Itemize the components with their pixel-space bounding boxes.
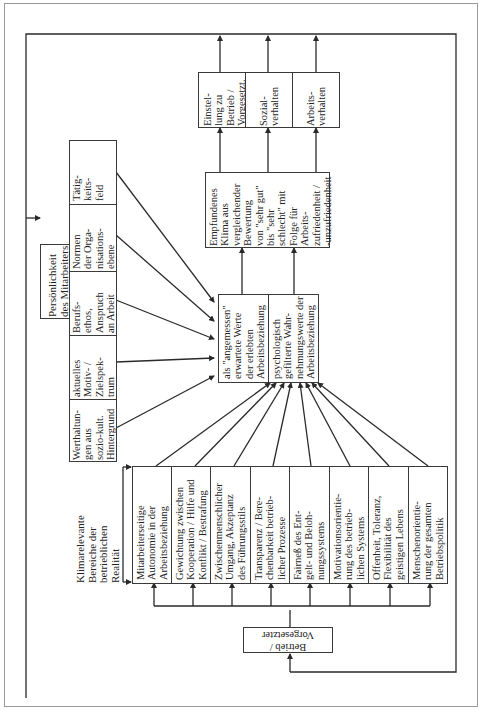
reality-area-gewichtung: Gewichtung zwischen Kooperation / Hilfe … xyxy=(172,467,211,583)
reality-area-fairness-label: Fairneß des Ent- gelt- und Beloh- nungss… xyxy=(292,511,326,580)
outcome-arbeitsverhalten-label: Arbeits- verhalten xyxy=(305,87,328,126)
factor-werthaltungen-label: Werthaltun- gen aus sozio-kult. Hintergr… xyxy=(71,409,117,460)
reality-area-transparenz: Transparenz / Bere- chenbarkeit betrieb-… xyxy=(251,467,290,583)
reality-area-menschenorientierung-label: Menschenorientie- rung der gesamten Betr… xyxy=(411,501,445,580)
reality-area-autonomie-label: Mitarbeiterseitige Autonomie in der Arbe… xyxy=(135,505,169,580)
reality-area-umgang: Zwischenmenschlicher Umgang, Akzeptanz d… xyxy=(211,467,251,583)
factor-werthaltungen: Werthaltun- gen aus sozio-kult. Hintergr… xyxy=(70,399,116,461)
factor-taetigkeitsfeld: Tätig- keits- feld xyxy=(70,141,116,204)
factor-normen: Normen der Orga- nisations- ebene xyxy=(70,204,116,271)
outcome-arbeitsverhalten-box: Arbeits- verhalten xyxy=(292,72,340,128)
source-box: Betrieb / Vorgesetzter xyxy=(243,627,333,653)
climate-label: Empfundenes Klima aus vergleichender Bew… xyxy=(208,177,333,246)
reality-area-gewichtung-label: Gewichtung zwischen Kooperation / Hilfe … xyxy=(174,479,208,580)
climate-box: Empfundenes Klima aus vergleichender Bew… xyxy=(205,172,330,248)
reality-area-motivation-label: Motivationsorientie- rung des betrieb- l… xyxy=(332,494,366,580)
factor-berufsethos-label: Berufs- ethos, Anspruch an Arbeit xyxy=(71,292,117,333)
factor-normen-label: Normen der Orga- nisations- ebene xyxy=(71,228,117,269)
reality-area-umgang-label: Zwischenmenschlicher Umgang, Akzeptanz d… xyxy=(213,483,247,580)
reality-area-offenheit-label: Offenheit, Toleranz, Flexibilität des ge… xyxy=(371,496,405,580)
reality-area-menschenorientierung: Menschenorientie- rung der gesamten Betr… xyxy=(409,467,447,583)
reality-title: Klimarelevante Bereiche der betriebliche… xyxy=(75,515,121,583)
factor-motivspektrum-label: aktuelles Motiv- / Zielspek- trum xyxy=(71,357,117,397)
factor-taetigkeitsfeld-label: Tätig- keits- feld xyxy=(71,175,105,201)
reality-area-autonomie: Mitarbeiterseitige Autonomie in der Arbe… xyxy=(133,467,172,583)
reality-area-motivation: Motivationsorientie- rung des betrieb- l… xyxy=(330,467,369,583)
source-label: Betrieb / Vorgesetzter xyxy=(244,629,332,653)
reality-area-offenheit: Offenheit, Toleranz, Flexibilität des ge… xyxy=(369,467,409,583)
factor-berufsethos: Berufs- ethos, Anspruch an Arbeit xyxy=(70,271,116,335)
reality-areas-box: Mitarbeiterseitige Autonomie in der Arbe… xyxy=(132,466,448,584)
expected-values-cell: als "angemessen" erwartete Werte der erl… xyxy=(219,295,269,382)
outcome-sozialverhalten-box: Sozial- verhalten xyxy=(245,72,293,128)
expected-values-label: als "angemessen" erwartete Werte der erl… xyxy=(221,305,267,379)
diagram-page: Einstel- lung zu Betrieb / Vorgesetzt. S… xyxy=(0,0,485,711)
outcome-einstellung-box: Einstel- lung zu Betrieb / Vorgesetzt. xyxy=(198,72,246,128)
reality-area-fairness: Fairneß des Ent- gelt- und Beloh- nungss… xyxy=(290,467,330,583)
factor-motivspektrum: aktuelles Motiv- / Zielspek- trum xyxy=(70,335,116,399)
personality-factors-box: Werthaltun- gen aus sozio-kult. Hintergr… xyxy=(69,140,117,462)
reality-area-transparenz-label: Transparenz / Bere- chenbarkeit betrieb-… xyxy=(253,496,287,580)
comparison-box: als "angemessen" erwartete Werte der erl… xyxy=(218,294,319,383)
outcome-einstellung-label: Einstel- lung zu Betrieb / Vorgesetzt. xyxy=(202,79,248,126)
personality-title: Persönlichkeit des Mitarbeiters xyxy=(47,246,70,317)
outcome-sozialverhalten-label: Sozial- verhalten xyxy=(258,87,281,126)
perceived-values-label: psychologisch gefilterte Wahr- nehmungsw… xyxy=(271,296,317,379)
perceived-values-cell: psychologisch gefilterte Wahr- nehmungsw… xyxy=(269,295,318,382)
